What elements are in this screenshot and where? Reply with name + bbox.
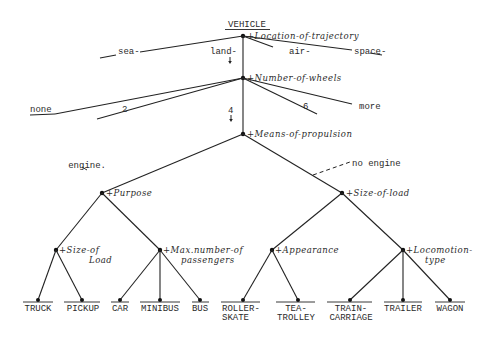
node-means-of-propulsion: +Means-of-propulsion: [241, 129, 353, 139]
branch-land: land-: [210, 47, 237, 57]
leaf-train-carriage: TRAIN- CARRIAGE: [327, 298, 373, 323]
attribute-label-line2: Load: [88, 255, 112, 265]
attribute-label: +Means-of-propulsion: [247, 129, 352, 139]
node-locomotion-type: +Locomotion- type: [401, 245, 473, 265]
leaf-wagon: WAGON: [435, 298, 465, 314]
leaf-label: PICKUP: [67, 304, 99, 314]
wheels-branches: none 2 4 6 more: [30, 78, 381, 134]
leaf-label-line2: CARRIAGE: [329, 313, 372, 323]
attribute-label: +Purpose: [106, 188, 152, 198]
attribute-label: +Appearance: [275, 245, 339, 255]
leaf-car: CAR: [111, 298, 129, 314]
branch-engine: engine.: [68, 161, 106, 171]
branch-space: space-: [354, 47, 386, 57]
branch-more: more: [359, 102, 381, 112]
level2-edges: [56, 193, 403, 250]
node-size-of-load: +Size-of-load: [340, 188, 410, 198]
attribute-label: +Size-of-load: [346, 188, 410, 198]
propulsion-branches: engine. no engine: [68, 134, 400, 193]
branch-4: 4: [228, 106, 233, 116]
attribute-label: +Max.number-of: [163, 245, 244, 255]
leaf-label: MINIBUS: [141, 304, 179, 314]
attribute-label-line2: passengers: [181, 255, 235, 265]
leaf-truck: TRUCK: [23, 298, 53, 314]
leaf-label-line2: SKATE: [222, 313, 249, 323]
leaf-label: WAGON: [436, 304, 463, 314]
attribute-label: +Number-of-wheels: [247, 73, 342, 83]
attribute-label: +Location-of-trajectory: [247, 31, 359, 41]
trajectory-branches: sea- land- air- space-: [100, 36, 386, 78]
branch-2: 2: [122, 105, 127, 115]
branch-6: 6: [303, 102, 308, 112]
leaf-label: TRAILER: [384, 304, 422, 314]
branch-none: none: [30, 105, 52, 115]
node-location-of-trajectory: +Location-of-trajectory: [241, 31, 359, 41]
leaf-label-line2: TROLLEY: [277, 313, 315, 323]
node-max-number-of-passengers: +Max.number-of passengers: [158, 245, 245, 265]
root-title: VEHICLE: [225, 20, 270, 30]
leaf-label: CAR: [112, 304, 129, 314]
branch-sea: sea-: [118, 47, 140, 57]
attribute-label: +Size-of: [59, 245, 101, 255]
leaf-bus: BUS: [192, 298, 209, 314]
leaf-trailer: TRAILER: [384, 298, 422, 314]
node-purpose: +Purpose: [100, 188, 153, 198]
leaf-pickup: PICKUP: [64, 298, 100, 314]
node-appearance: +Appearance: [270, 245, 339, 255]
leaf-label: TRUCK: [24, 304, 52, 314]
title-text: VEHICLE: [228, 20, 266, 30]
attribute-label: +Locomotion-: [406, 245, 473, 255]
leaf-label: BUS: [192, 304, 208, 314]
vehicle-decision-tree: VEHICLE +Location-of-trajectory sea- lan…: [0, 0, 501, 338]
branch-air: air-: [289, 47, 311, 57]
branch-no-engine: no engine: [352, 159, 401, 169]
leaf-minibus: MINIBUS: [140, 298, 180, 314]
leaf-roller-skate: ROLLER- SKATE: [221, 298, 260, 323]
leaf-tea-trolley: TEA- TROLLEY: [276, 298, 315, 323]
attribute-label-line2: type: [425, 255, 446, 265]
